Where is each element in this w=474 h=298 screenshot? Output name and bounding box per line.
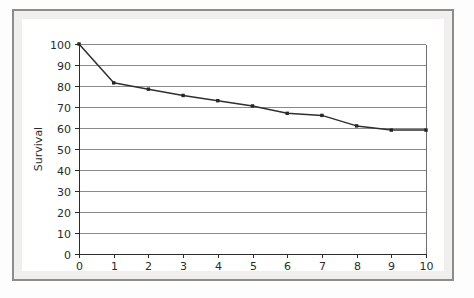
- data-point-year-8: [355, 124, 358, 127]
- data-point-year-2: [147, 87, 150, 90]
- figure-canvas: 0102030405060708090100 012345678910 Year…: [22, 19, 444, 271]
- y-tick-label-80: 80: [57, 81, 71, 94]
- x-tick-label-1: 1: [111, 260, 118, 273]
- y-tick-label-100: 100: [50, 39, 71, 52]
- data-point-year-1: [112, 81, 115, 84]
- x-tick-label-3: 3: [180, 260, 187, 273]
- data-point-year-10: [424, 128, 427, 131]
- survival-series-line: [79, 44, 426, 130]
- x-tick-label-8: 8: [354, 260, 361, 273]
- x-tick-label-2: 2: [145, 260, 152, 273]
- x-tick-label-0: 0: [76, 260, 83, 273]
- y-tick-label-60: 60: [57, 123, 71, 136]
- data-point-year-7: [320, 114, 323, 117]
- y-tick-label-70: 70: [57, 102, 71, 115]
- y-axis-title: Survival: [32, 127, 45, 171]
- y-tick-label-30: 30: [57, 186, 71, 199]
- x-tick-label-10: 10: [420, 260, 434, 273]
- data-point-year-0: [77, 42, 80, 45]
- data-point-year-6: [286, 112, 289, 115]
- survival-line-chart: 0102030405060708090100 012345678910 Year…: [22, 19, 448, 275]
- x-tick-label-9: 9: [388, 260, 395, 273]
- survival-series-markers: [77, 42, 427, 132]
- x-tick-label-4: 4: [215, 260, 222, 273]
- x-tick-label-6: 6: [284, 260, 291, 273]
- y-tick-label-40: 40: [57, 165, 71, 178]
- figure-frame: 0102030405060708090100 012345678910 Year…: [12, 9, 454, 281]
- y-axis-label-group: 0102030405060708090100: [50, 39, 71, 262]
- x-tick-label-5: 5: [250, 260, 257, 273]
- gridline-group: [79, 45, 426, 255]
- y-tick-label-10: 10: [57, 228, 71, 241]
- data-point-year-9: [390, 128, 393, 131]
- y-tick-label-20: 20: [57, 207, 71, 220]
- data-point-year-5: [251, 104, 254, 107]
- y-tick-label-50: 50: [57, 144, 71, 157]
- x-tick-label-7: 7: [319, 260, 326, 273]
- y-axis-tick-group: [75, 45, 79, 255]
- data-point-year-3: [181, 94, 184, 97]
- y-tick-label-90: 90: [57, 60, 71, 73]
- x-axis-label-group: 012345678910: [76, 260, 434, 273]
- y-tick-label-0: 0: [64, 249, 71, 262]
- data-point-year-4: [216, 99, 219, 102]
